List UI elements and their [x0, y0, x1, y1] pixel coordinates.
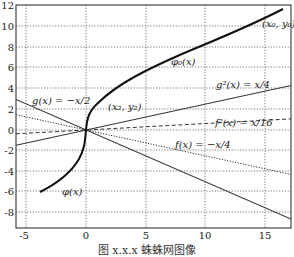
- y-tick: 12: [1, 0, 14, 11]
- figure-caption: 图 x.x.x 蛛蛛网图像: [0, 241, 294, 257]
- label-f2: f²(x) = x/16: [214, 117, 273, 128]
- y-tick: 10: [1, 21, 14, 32]
- label-phi: φ(x): [62, 186, 83, 197]
- y-tick: 2: [8, 104, 14, 115]
- x-axis-ticks: -5 0 5 10 15: [19, 230, 271, 241]
- y-tick: 6: [8, 62, 14, 73]
- x-tick: 15: [259, 230, 272, 241]
- label-g: g(x) = −x/2: [32, 95, 90, 106]
- x-tick: 5: [143, 230, 149, 241]
- label-g2: g²(x) = x/4: [216, 79, 270, 90]
- y-tick: -6: [4, 186, 14, 197]
- label-x2y2: (x₂, y₂): [108, 101, 142, 112]
- label-f: f(x) = −x/4: [174, 139, 231, 150]
- series-phi-curve: [40, 130, 86, 192]
- x-tick: 10: [199, 230, 212, 241]
- x-tick: 0: [83, 230, 89, 241]
- y-tick: -4: [4, 166, 14, 177]
- y-axis-ticks: 12 10 8 6 4 2 0 -2 -4 -6 -8: [1, 0, 14, 218]
- label-phi0: φ₀(x): [171, 56, 196, 67]
- y-tick: 8: [8, 42, 14, 53]
- x-tick: -5: [19, 230, 29, 241]
- label-x0y0: (x₀, y₀): [262, 18, 294, 29]
- y-tick: -8: [4, 207, 14, 218]
- y-tick: 0: [8, 125, 14, 136]
- origin-point: [85, 129, 88, 132]
- y-tick: 4: [8, 83, 14, 94]
- y-tick: -2: [4, 145, 14, 156]
